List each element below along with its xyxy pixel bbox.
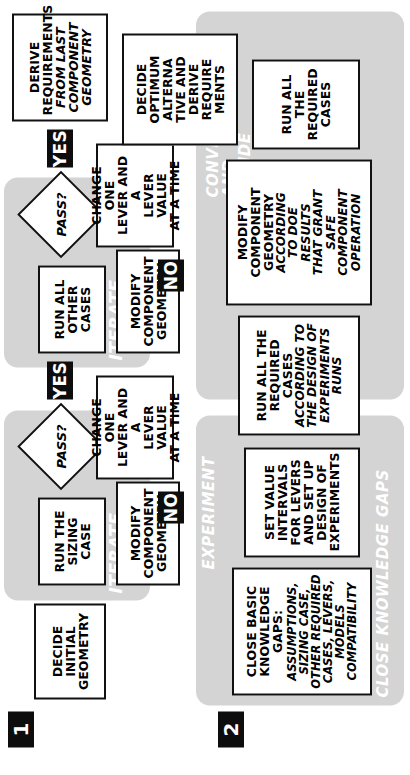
node-decide-initial-geometry: DECIDE INITIAL GEOMETRY	[34, 603, 106, 699]
node-run-all-other-cases: RUN ALL OTHER CASES	[38, 265, 106, 353]
node-change-one-lever-1: CHANGE ONE LEVER AND A LEVER VALUE AT A …	[96, 375, 174, 479]
badge-no-1: NO	[158, 491, 184, 523]
node-close-basic-knowledge-gaps: CLOSE BASIC KNOWLEDGE GAPS: ASSUMPTIONS,…	[232, 567, 372, 695]
node-set-value-intervals: SET VALUE INTERVALS FOR LEVERS AND SET U…	[244, 447, 360, 557]
group-experiment-label: EXPERIMENT	[202, 419, 217, 569]
node-derive-requirements: DERIVE REQUIREMENTS FROM LAST COMPONENT …	[12, 13, 108, 121]
badge-yes-1: YES	[47, 361, 73, 399]
step-marker-2: 2	[218, 711, 244, 747]
group-close-knowledge-gaps-label: CLOSE KNOWLEDGE GAPS	[376, 427, 391, 697]
node-decide-optimum-final: DECIDE OPTIMUM ALTERNA TIVE AND DERIVE R…	[122, 33, 238, 145]
node-run-all-the-required-cases: RUN ALL THE REQUIRED CASES	[252, 59, 360, 149]
node-run-the-sizing-case: RUN THE SIZING CASE	[38, 497, 106, 585]
node-run-required-cases-doe: RUN ALL THE REQUIRED CASES ACCORDING TO …	[238, 315, 360, 435]
diagram-canvas: 1 ITERATE ITERATE DECIDE INITIAL GEOMETR…	[0, 0, 410, 775]
node-modify-geometry-doe: MODIFY COMPONENT GEOMETRY ACCORDING TO D…	[226, 159, 372, 305]
node-change-one-lever-2: CHANGE ONE LEVER AND A LEVER VALUE AT A …	[96, 143, 174, 247]
badge-no-2: NO	[158, 259, 184, 291]
flowchart: 1 ITERATE ITERATE DECIDE INITIAL GEOMETR…	[0, 0, 410, 775]
badge-yes-2: YES	[47, 129, 73, 167]
step-marker-1: 1	[8, 711, 34, 747]
